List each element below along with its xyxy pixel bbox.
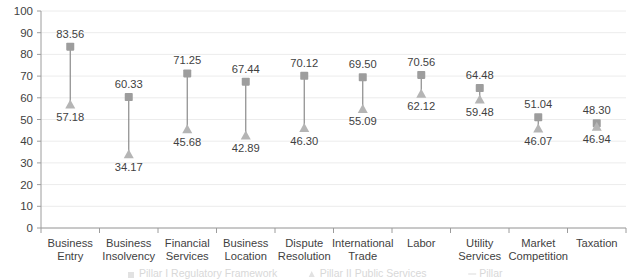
x-category-label: Utility xyxy=(466,237,494,249)
y-axis-tick-labels: 0102030405060708090100 xyxy=(14,5,33,234)
value-label-low: 59.48 xyxy=(466,106,494,118)
x-category-label-line2: Insolvency xyxy=(102,250,155,262)
marker-square-high xyxy=(359,73,367,81)
y-axis-tick-label: 30 xyxy=(20,157,33,169)
value-label-low: 62.12 xyxy=(407,100,435,112)
x-category-label-line2: Services xyxy=(458,250,501,262)
marker-triangle-low xyxy=(124,149,134,158)
value-label-high: 69.50 xyxy=(349,58,377,70)
x-category-label: Business xyxy=(223,237,269,249)
x-category-label: Business xyxy=(106,237,152,249)
value-label-high: 51.04 xyxy=(524,98,552,110)
x-category-label-line2: Services xyxy=(166,250,209,262)
y-axis-tick-label: 20 xyxy=(20,179,33,191)
y-axis-tick-label: 90 xyxy=(20,27,33,39)
marker-square-high xyxy=(242,78,250,86)
legend-label: Pillar II Public Services xyxy=(320,267,427,279)
range-dumbbell-chart: 0102030405060708090100 83.5657.1860.3334… xyxy=(0,0,633,280)
y-axis-tick-label: 0 xyxy=(27,222,33,234)
marker-square-high xyxy=(300,72,308,80)
marker-triangle-low xyxy=(475,94,485,103)
connector-lines-group xyxy=(70,47,597,154)
x-category-label-line2: Location xyxy=(225,250,267,262)
value-label-high: 48.30 xyxy=(583,104,611,116)
y-axis-tick-marks xyxy=(37,11,41,228)
y-axis-tick-label: 80 xyxy=(20,48,33,60)
marker-square-high xyxy=(476,84,484,92)
legend-label: Pillar xyxy=(479,267,503,279)
marker-triangle-low xyxy=(533,124,543,133)
marker-square-high xyxy=(183,69,191,77)
legend-label: Pillar I Regulatory Framework xyxy=(139,267,278,279)
y-axis-tick-label: 70 xyxy=(20,70,33,82)
value-label-low: 42.89 xyxy=(232,142,260,154)
marker-triangle-low xyxy=(299,123,309,132)
x-category-label: International xyxy=(332,237,394,249)
y-axis-tick-label: 100 xyxy=(14,5,33,17)
chart-container: 0102030405060708090100 83.5657.1860.3334… xyxy=(0,0,633,280)
value-label-low: 46.30 xyxy=(290,135,318,147)
value-label-low: 34.17 xyxy=(115,161,143,173)
marker-triangle-low xyxy=(241,130,251,139)
x-category-label-line2: Resolution xyxy=(278,250,331,262)
value-label-low: 46.94 xyxy=(583,133,611,145)
data-value-labels-group: 83.5657.1860.3334.1771.2545.6867.4442.89… xyxy=(56,28,611,173)
x-category-label: Labor xyxy=(407,237,436,249)
y-axis-tick-label: 50 xyxy=(20,114,33,126)
y-axis-tick-label: 60 xyxy=(20,92,33,104)
x-category-label-line2: Trade xyxy=(348,250,377,262)
value-label-high: 83.56 xyxy=(56,28,84,40)
value-label-high: 70.12 xyxy=(290,57,318,69)
x-category-label-line2: Entry xyxy=(57,250,84,262)
value-label-low: 45.68 xyxy=(173,136,201,148)
x-axis-category-labels: BusinessEntryBusinessInsolvencyFinancial… xyxy=(48,237,618,262)
x-category-label: Taxation xyxy=(576,237,618,249)
marker-triangle-low xyxy=(182,124,192,133)
value-label-high: 70.56 xyxy=(407,56,435,68)
x-category-label: Business xyxy=(48,237,94,249)
marker-square-high xyxy=(66,43,74,51)
x-category-label: Market xyxy=(521,237,556,249)
value-label-low: 57.18 xyxy=(56,111,84,123)
value-label-low: 46.07 xyxy=(524,135,552,147)
marker-square-high xyxy=(534,113,542,121)
legend-marker-triangle xyxy=(309,271,315,277)
legend-marker-square xyxy=(128,272,134,278)
legend: Pillar I Regulatory FrameworkPillar II P… xyxy=(128,267,503,279)
x-axis-tick-marks xyxy=(41,228,626,233)
value-label-high: 60.33 xyxy=(115,78,143,90)
value-label-high: 67.44 xyxy=(232,63,260,75)
y-axis-tick-label: 10 xyxy=(20,200,33,212)
x-category-label-line2: Competition xyxy=(508,250,568,262)
x-category-label: Financial xyxy=(165,237,210,249)
value-label-low: 55.09 xyxy=(349,115,377,127)
marker-triangle-low xyxy=(416,89,426,98)
marker-triangle-low xyxy=(65,99,75,108)
y-axis-tick-label: 40 xyxy=(20,135,33,147)
marker-triangle-low xyxy=(358,104,368,113)
marker-square-high xyxy=(417,71,425,79)
value-label-high: 64.48 xyxy=(466,69,494,81)
marker-square-high xyxy=(125,93,133,101)
value-label-high: 71.25 xyxy=(173,54,201,66)
x-category-label: Dispute xyxy=(285,237,323,249)
